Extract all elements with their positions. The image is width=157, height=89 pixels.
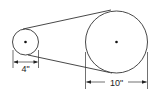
large-pulley-center	[115, 41, 118, 44]
small-diameter-label: 4"	[21, 64, 29, 74]
pulley-diagram: 4" 10"	[0, 0, 157, 89]
small-pulley-center	[24, 41, 27, 44]
large-diameter-label: 10"	[110, 78, 123, 88]
